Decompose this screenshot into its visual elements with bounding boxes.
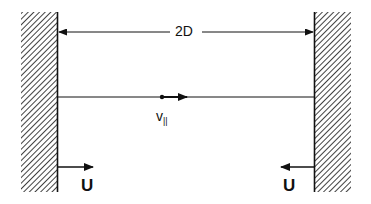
left-wall-velocity-label: U [81,176,93,196]
dimension-label: 2D [172,23,196,39]
velocity-symbol: v [156,108,163,124]
right-wall-velocity-label: U [283,176,295,196]
right-wall [315,12,352,192]
particle-trajectory [58,95,314,99]
velocity-subscript: || [163,116,168,126]
particle-velocity-label: v|| [156,108,168,126]
left-wall [21,12,58,192]
